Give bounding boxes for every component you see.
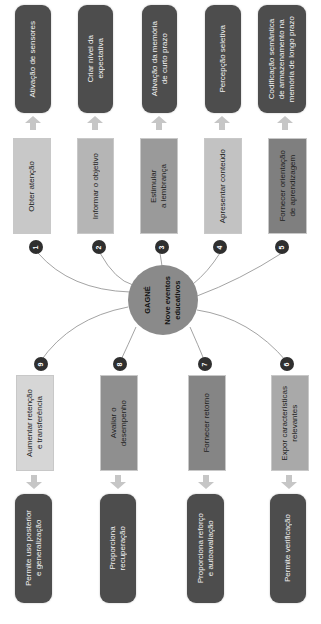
outcome-box-2: Criar nível da expectativa <box>78 5 113 113</box>
outcome-box-7: Proporciona reforço e autoavaliação <box>187 494 224 603</box>
event-box-5: Fornecer orientação de aprendizagem <box>268 138 307 234</box>
number-badge-5: 5 <box>275 240 289 254</box>
event-label-1: Obter atenção <box>27 161 37 212</box>
arrow-up-icon <box>87 116 103 130</box>
number-badge-3: 3 <box>155 240 169 254</box>
event-box-6: Expor características relevantes <box>271 375 309 471</box>
hub-subtitle: Nove eventos educativos <box>163 276 183 325</box>
connector-1 <box>38 253 130 292</box>
event-box-1: Obter atenção <box>13 138 51 234</box>
event-box-4: Apresentar conteúdo <box>204 138 242 234</box>
arrow-down-icon <box>26 475 42 489</box>
event-box-2: Informar o objetivo <box>77 138 114 234</box>
event-box-3: Estimular a lembrança <box>140 138 178 234</box>
outcome-text-3: Ativação da memória de curto prazo <box>150 21 170 96</box>
event-label-6: Expor características relevantes <box>280 386 300 461</box>
connector-6 <box>197 310 287 362</box>
event-box-7: Fornecer retorno <box>188 375 226 471</box>
arrow-up-icon <box>214 116 230 130</box>
outcome-box-4: Percepção seletiva <box>205 5 241 113</box>
outcome-text-9: Permite uso posterior e generalização <box>24 510 44 586</box>
event-label-2: Informar o objetivo <box>91 153 101 219</box>
connector-9 <box>40 307 128 362</box>
number-badge-6: 6 <box>280 357 294 371</box>
event-label-9: Aumentar retenção e transferência <box>25 389 45 457</box>
event-box-9: Aumentar retenção e transferência <box>16 375 54 471</box>
event-label-5: Fornecer orientação de aprendizagem <box>278 150 298 222</box>
number-badge-8: 8 <box>113 357 127 371</box>
number-badge-2: 2 <box>92 240 106 254</box>
outcome-text-8: Proporciona recuperação <box>108 526 128 570</box>
event-box-8: Avaliar o desempenho <box>100 375 138 471</box>
arrow-up-icon <box>151 116 167 130</box>
number-badge-4: 4 <box>213 240 227 254</box>
outcome-box-8: Proporciona recuperação <box>100 494 136 603</box>
outcome-text-6: Permite verificação <box>283 514 293 582</box>
outcome-box-1: Ativação de sensores <box>15 5 51 113</box>
event-label-7: Fornecer retorno <box>202 393 212 453</box>
number-badge-7: 7 <box>198 357 212 371</box>
outcome-text-2: Criar nível da expectativa <box>86 35 106 83</box>
arrow-up-icon <box>25 116 41 130</box>
outcome-text-4: Percepção seletiva <box>218 25 228 93</box>
arrow-up-icon <box>277 116 293 130</box>
number-badge-9: 9 <box>34 357 48 371</box>
arrow-down-icon <box>281 475 297 489</box>
arrow-down-icon <box>198 475 214 489</box>
outcome-text-5: Codificação semântica de armazenamento n… <box>267 16 297 102</box>
outcome-text-1: Ativação de sensores <box>28 21 38 98</box>
connector-4 <box>193 253 220 284</box>
connector-5 <box>197 253 282 296</box>
event-label-3: Estimular a lembrança <box>149 164 169 208</box>
number-badge-1: 1 <box>29 240 43 254</box>
outcome-box-3: Ativação da memória de curto prazo <box>142 5 177 113</box>
hub-title: GAGNÉ <box>143 276 153 325</box>
event-label-8: Avaliar o desempenho <box>109 400 129 446</box>
arrow-down-icon <box>110 475 126 489</box>
hub-circle: GAGNÉ Nove eventos educativos <box>128 265 198 335</box>
outcome-text-7: Proporciona reforço e autoavaliação <box>196 513 216 583</box>
event-label-4: Apresentar conteúdo <box>218 149 228 223</box>
connector-2 <box>100 253 133 285</box>
outcome-box-5: Codificação semântica de armazenamento n… <box>258 5 306 113</box>
outcome-box-6: Permite verificação <box>270 494 306 603</box>
outcome-box-9: Permite uso posterior e generalização <box>15 494 52 603</box>
